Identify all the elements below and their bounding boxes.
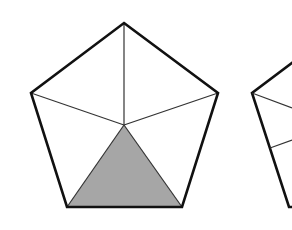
pentagon-2-outline <box>252 62 292 207</box>
pentagon-2-partial <box>252 62 292 207</box>
pentagon-2-inner-line-2 <box>270 140 292 148</box>
pentagon-1 <box>31 23 218 207</box>
shaded-triangle <box>67 125 182 207</box>
spoke-left <box>31 93 124 125</box>
spoke-right <box>124 93 218 125</box>
pentagon-2-inner-line-1 <box>252 93 292 108</box>
pentagon-diagram <box>0 0 292 230</box>
